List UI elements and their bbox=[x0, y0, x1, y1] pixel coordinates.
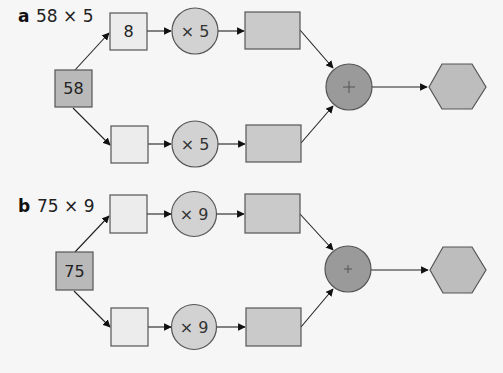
split-arrow-bottom bbox=[74, 291, 110, 327]
top-product-box[interactable] bbox=[245, 194, 300, 233]
diagram-b: b 75 × 9 75 × 9 bbox=[18, 192, 486, 350]
start-value: 75 bbox=[64, 262, 84, 281]
multiply-operator: × 9 bbox=[180, 205, 209, 224]
multiply-operator: × 5 bbox=[181, 22, 210, 41]
result-hexagon[interactable] bbox=[430, 247, 486, 293]
start-value: 58 bbox=[63, 79, 83, 98]
multiply-operator: × 5 bbox=[181, 135, 210, 154]
top-part-value: 8 bbox=[123, 22, 133, 41]
top-part-box[interactable]: 8 bbox=[110, 13, 147, 50]
result-hexagon[interactable] bbox=[429, 64, 486, 109]
bottom-product-box[interactable] bbox=[246, 125, 301, 162]
multiply-circle-top: × 5 bbox=[172, 8, 218, 54]
multiply-operator: × 9 bbox=[180, 318, 209, 337]
start-number-box: 75 bbox=[56, 252, 93, 290]
diagram-a: a 58 × 5 58 8 × 5 bbox=[18, 6, 486, 167]
add-circle bbox=[325, 246, 371, 292]
multiply-circle-bottom: × 5 bbox=[172, 121, 218, 167]
multiply-circle-bottom: × 9 bbox=[172, 305, 217, 350]
arrow bbox=[300, 214, 333, 250]
diagram-expression: 75 × 9 bbox=[37, 196, 95, 216]
bottom-part-box[interactable] bbox=[111, 308, 148, 346]
arrow bbox=[301, 106, 333, 143]
top-product-box[interactable] bbox=[245, 12, 300, 49]
start-number-box: 58 bbox=[55, 70, 92, 107]
bottom-product-box[interactable] bbox=[246, 308, 301, 346]
arrow bbox=[300, 30, 333, 68]
diagram-letter: a bbox=[18, 6, 29, 26]
bottom-part-box[interactable] bbox=[111, 126, 148, 163]
diagram-letter: b bbox=[18, 196, 30, 216]
split-arrow-top bbox=[75, 216, 109, 252]
multiply-circle-top: × 9 bbox=[172, 192, 217, 237]
arrow bbox=[301, 289, 333, 327]
diagram-expression: 58 × 5 bbox=[36, 6, 94, 26]
top-part-box[interactable] bbox=[110, 195, 147, 233]
split-arrow-bottom bbox=[73, 108, 110, 145]
partition-diagrams: a 58 × 5 58 8 × 5 bbox=[0, 0, 503, 373]
add-circle bbox=[326, 64, 372, 110]
split-arrow-top bbox=[75, 33, 109, 70]
